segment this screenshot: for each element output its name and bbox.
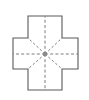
center-point-marker: [43, 52, 47, 56]
figure-canvas: [0, 0, 89, 100]
cross-diagram-svg: [0, 0, 89, 100]
